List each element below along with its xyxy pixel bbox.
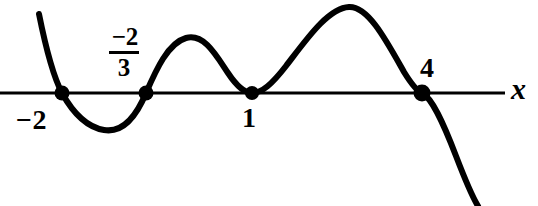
graph-canvas: [0, 0, 538, 206]
root-label-one: 1: [242, 104, 256, 132]
root-marker-neg-two-thirds: [139, 86, 154, 101]
root-label-neg-two-thirds: −2 3: [100, 24, 148, 82]
root-marker-one: [245, 86, 259, 100]
x-axis-label: x: [511, 74, 526, 104]
root-marker-neg-two: [55, 86, 70, 101]
root-marker-four: [414, 85, 431, 102]
root-label-neg-two: −2: [16, 106, 47, 134]
polynomial-graph-figure: −2 −2 3 1 4 x: [0, 0, 538, 206]
root-label-four: 4: [420, 54, 434, 82]
fraction-denominator: 3: [100, 55, 148, 81]
fraction-numerator: −2: [100, 24, 148, 50]
